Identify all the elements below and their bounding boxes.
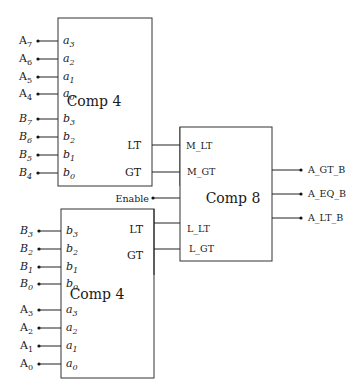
- input-row: B3b3: [19, 224, 78, 239]
- output-row: A_EQ_B: [272, 188, 346, 200]
- external-signal-label: B3: [19, 224, 33, 239]
- external-signal-label: A1: [19, 339, 33, 354]
- output-terminal-dot: [299, 192, 302, 195]
- comparator-circuit-diagram: Comp 4 A7a3A6a2A5a1A4a0B7b3B6b2B5b1B4b0 …: [0, 0, 360, 390]
- external-signal-label: B6: [18, 130, 32, 145]
- input-row: A1a1: [19, 339, 78, 354]
- input-row: A5a1: [18, 70, 75, 85]
- input-row: B7b3: [18, 112, 75, 127]
- input-row: B4b0: [18, 166, 75, 181]
- bottom-comp4-gt-label: GT: [127, 249, 144, 262]
- comp8-input-l-lt: L_LT: [187, 223, 211, 235]
- output-row: A_GT_B: [272, 164, 345, 176]
- top-comp4-gt-label: GT: [125, 166, 142, 179]
- enable-label: Enable: [116, 193, 150, 204]
- comp8-input-l-gt: L_GT: [189, 243, 215, 255]
- external-signal-label: A4: [18, 87, 32, 102]
- external-signal-label: A2: [19, 321, 33, 336]
- input-row: B6b2: [18, 130, 75, 145]
- external-signal-label: B0: [19, 277, 33, 292]
- input-row: A6a2: [18, 52, 75, 67]
- interconnect-wires: [151, 127, 180, 275]
- input-row: B2b2: [19, 242, 78, 257]
- comp8-input-m-gt: M_GT: [187, 166, 216, 178]
- output-label-a-eq-b: A_EQ_B: [307, 188, 346, 200]
- output-terminal-dot: [299, 168, 302, 171]
- input-row: A7a3: [18, 34, 75, 49]
- output-row: A_LT_B: [272, 212, 343, 224]
- input-row: B0b0: [19, 277, 78, 292]
- bottom-comp4-block: Comp 4 B3b3B2b2B1b1B0b0A3a3A2a2A1a1A0a0 …: [19, 209, 154, 378]
- external-signal-label: B1: [19, 260, 33, 275]
- external-signal-label: A6: [18, 52, 32, 67]
- input-row: A4a0: [18, 87, 75, 102]
- output-label-a-lt-b: A_LT_B: [307, 212, 343, 224]
- comp8-input-m-lt: M_LT: [186, 140, 213, 152]
- external-signal-label: A0: [19, 357, 33, 372]
- external-signal-label: B4: [18, 166, 32, 181]
- top-comp4-lt-label: LT: [127, 139, 141, 152]
- input-row: A0a0: [19, 357, 78, 372]
- input-row: B1b1: [19, 260, 78, 275]
- input-row: B5b1: [18, 148, 75, 163]
- external-signal-label: B7: [18, 112, 33, 127]
- top-comp4-block: Comp 4 A7a3A6a2A5a1A4a0B7b3B6b2B5b1B4b0 …: [18, 18, 152, 186]
- comp8-title: Comp 8: [206, 190, 261, 206]
- input-row: A2a2: [19, 321, 78, 336]
- bottom-comp4-lt-label: LT: [129, 223, 143, 236]
- external-signal-label: A3: [19, 303, 33, 318]
- external-signal-label: B5: [18, 148, 32, 163]
- output-label-a-gt-b: A_GT_B: [307, 164, 345, 176]
- external-signal-label: A7: [18, 34, 32, 49]
- enable-terminal-dot: [151, 196, 154, 199]
- output-terminal-dot: [299, 216, 302, 219]
- external-signal-label: B2: [19, 242, 33, 257]
- top-comp4-title: Comp 4: [67, 93, 122, 109]
- external-signal-label: A5: [18, 70, 32, 85]
- comp8-outputs: A_GT_BA_EQ_BA_LT_B: [272, 164, 346, 224]
- input-row: A3a3: [19, 303, 78, 318]
